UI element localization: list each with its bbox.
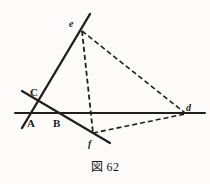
- point-label-e: e: [69, 19, 73, 29]
- line-C-to-f: [22, 91, 110, 143]
- point-label-B: B: [53, 118, 60, 129]
- dashed-e-to-d: [82, 31, 185, 113]
- point-label-d: d: [186, 103, 191, 113]
- figure-caption: 図 62: [0, 157, 210, 175]
- point-label-f: f: [88, 139, 91, 149]
- dashed-e-to-f: [82, 31, 93, 133]
- point-label-C: C: [30, 87, 38, 98]
- figure-62-diagram: ABCdef 図 62: [0, 0, 210, 184]
- dashed-f-to-d: [93, 114, 185, 133]
- point-label-A: A: [27, 118, 35, 129]
- dashed-lines-group: [82, 31, 185, 133]
- solid-lines-group: [15, 14, 205, 143]
